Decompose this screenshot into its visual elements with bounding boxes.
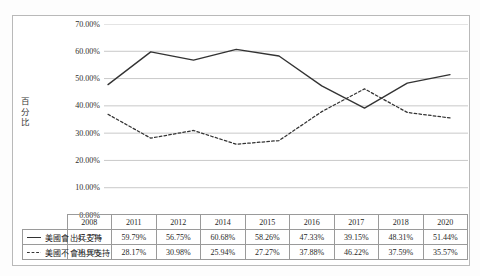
table-header-year: 2018 bbox=[379, 215, 424, 230]
series-line-2 bbox=[108, 89, 450, 144]
table-value-cell: 39.15% bbox=[334, 230, 379, 245]
table-corner-cell bbox=[23, 215, 68, 230]
legend-cell-series-1: 美國會出兵支持 bbox=[23, 230, 68, 245]
table-value-cell: 56.75% bbox=[156, 230, 201, 245]
table-row-series-1: 美國會出兵支持47.77%59.79%56.75%60.68%58.26%47.… bbox=[23, 230, 468, 245]
table-value-cell: 60.68% bbox=[201, 230, 246, 245]
y-axis-tick-label: 40.00% bbox=[50, 101, 100, 110]
table-header-year: 2012 bbox=[156, 215, 201, 230]
y-axis-tick-label: 60.00% bbox=[50, 47, 100, 56]
table-header-year: 2011 bbox=[112, 215, 157, 230]
table-header-year: 2008 bbox=[67, 215, 112, 230]
plot-area bbox=[104, 24, 468, 215]
table-value-cell: 25.94% bbox=[201, 245, 246, 260]
line-chart-svg bbox=[104, 24, 468, 215]
solid-line-icon bbox=[27, 234, 41, 241]
table-value-cell: 28.17% bbox=[112, 245, 157, 260]
y-axis-title: 百分比 bbox=[17, 96, 33, 128]
table-value-cell: 27.27% bbox=[245, 245, 290, 260]
table-header-year: 2020 bbox=[423, 215, 468, 230]
legend-cell-series-2: 美國不會出兵支持 bbox=[23, 245, 68, 260]
table-header-year: 2015 bbox=[245, 215, 290, 230]
table-value-cell: 58.26% bbox=[245, 230, 290, 245]
table-row-header: 200820112012201420152016201720182020 bbox=[23, 215, 468, 230]
table-value-cell: 51.44% bbox=[423, 230, 468, 245]
y-axis-tick-label: 50.00% bbox=[50, 74, 100, 83]
dotted-line-icon bbox=[27, 249, 41, 256]
table-value-cell: 59.79% bbox=[112, 230, 157, 245]
chart-root: 百分比 70.00%60.00%50.00%40.00%30.00%20.00%… bbox=[0, 0, 480, 276]
y-axis-tick-label: 10.00% bbox=[50, 183, 100, 192]
y-axis-tick-label: 20.00% bbox=[50, 156, 100, 165]
table-value-cell: 48.31% bbox=[379, 230, 424, 245]
table-value-cell: 35.57% bbox=[423, 245, 468, 260]
table-value-cell: 37.88% bbox=[290, 245, 335, 260]
table-header-year: 2014 bbox=[201, 215, 246, 230]
table-row-series-2: 美國不會出兵支持36.90%28.17%30.98%25.94%27.27%37… bbox=[23, 245, 468, 260]
table-value-cell: 30.98% bbox=[156, 245, 201, 260]
table-header-year: 2017 bbox=[334, 215, 379, 230]
table-header-year: 2016 bbox=[290, 215, 335, 230]
table-value-cell: 47.33% bbox=[290, 230, 335, 245]
data-table: 200820112012201420152016201720182020 美國會… bbox=[22, 214, 468, 260]
table-value-cell: 37.59% bbox=[379, 245, 424, 260]
table-value-cell: 46.22% bbox=[334, 245, 379, 260]
y-axis-tick-label: 70.00% bbox=[50, 20, 100, 29]
y-axis-tick-label: 30.00% bbox=[50, 129, 100, 138]
